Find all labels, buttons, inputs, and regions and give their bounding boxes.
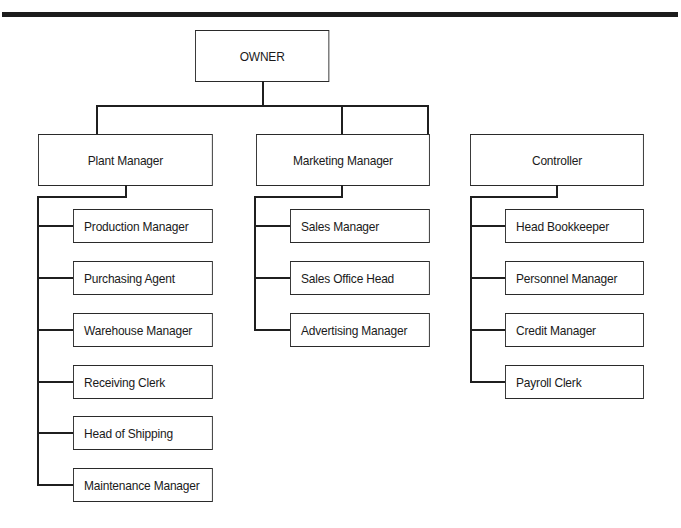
owner-label: OWNER xyxy=(240,49,285,64)
controller-tick xyxy=(470,277,506,279)
level1-bus-line xyxy=(96,105,429,107)
controller-tick xyxy=(470,329,506,331)
report-label: Head of Shipping xyxy=(84,426,173,441)
marketing-spine xyxy=(254,196,256,331)
plant-tick xyxy=(37,432,73,434)
report-label: Head Bookkeeper xyxy=(516,219,609,234)
report-maintenance-manager: Maintenance Manager xyxy=(73,468,213,502)
plant-tick xyxy=(37,381,73,383)
marketing-drop-line xyxy=(341,105,343,135)
plant-tick xyxy=(37,225,73,227)
plant-branch-cross xyxy=(37,196,127,198)
report-warehouse-manager: Warehouse Manager xyxy=(73,313,213,347)
report-head-bookkeeper: Head Bookkeeper xyxy=(505,209,644,243)
marketing-tick xyxy=(254,329,290,331)
dept-label: Controller xyxy=(532,153,582,168)
controller-tick xyxy=(470,381,506,383)
report-head-of-shipping: Head of Shipping xyxy=(73,416,213,450)
report-credit-manager: Credit Manager xyxy=(505,313,644,347)
dept-marketing-manager: Marketing Manager xyxy=(256,134,430,186)
plant-drop-line xyxy=(96,105,98,135)
report-label: Advertising Manager xyxy=(301,323,407,338)
plant-tick xyxy=(37,329,73,331)
controller-drop-line xyxy=(427,105,429,135)
top-rule xyxy=(2,12,678,17)
report-label: Production Manager xyxy=(84,219,188,234)
owner-drop-line xyxy=(262,81,264,107)
report-receiving-clerk: Receiving Clerk xyxy=(73,365,213,399)
report-label: Purchasing Agent xyxy=(84,271,175,286)
controller-branch-cross xyxy=(470,196,558,198)
dept-label: Marketing Manager xyxy=(293,153,393,168)
marketing-tick xyxy=(254,225,290,227)
plant-spine xyxy=(37,196,39,486)
report-label: Credit Manager xyxy=(516,323,596,338)
marketing-branch-cross xyxy=(254,196,343,198)
report-advertising-manager: Advertising Manager xyxy=(290,313,430,347)
dept-controller: Controller xyxy=(470,134,644,186)
dept-plant-manager: Plant Manager xyxy=(38,134,213,186)
report-label: Warehouse Manager xyxy=(84,323,192,338)
report-label: Maintenance Manager xyxy=(84,478,200,493)
owner-box: OWNER xyxy=(195,30,329,82)
report-sales-office-head: Sales Office Head xyxy=(290,261,430,295)
plant-tick xyxy=(37,484,73,486)
report-purchasing-agent: Purchasing Agent xyxy=(73,261,213,295)
report-label: Personnel Manager xyxy=(516,271,617,286)
report-label: Payroll Clerk xyxy=(516,375,581,390)
plant-tick xyxy=(37,277,73,279)
report-personnel-manager: Personnel Manager xyxy=(505,261,644,295)
report-payroll-clerk: Payroll Clerk xyxy=(505,365,644,399)
report-sales-manager: Sales Manager xyxy=(290,209,430,243)
report-label: Receiving Clerk xyxy=(84,375,165,390)
report-production-manager: Production Manager xyxy=(73,209,213,243)
marketing-tick xyxy=(254,277,290,279)
report-label: Sales Office Head xyxy=(301,271,394,286)
controller-tick xyxy=(470,225,506,227)
report-label: Sales Manager xyxy=(301,219,379,234)
dept-label: Plant Manager xyxy=(88,153,163,168)
